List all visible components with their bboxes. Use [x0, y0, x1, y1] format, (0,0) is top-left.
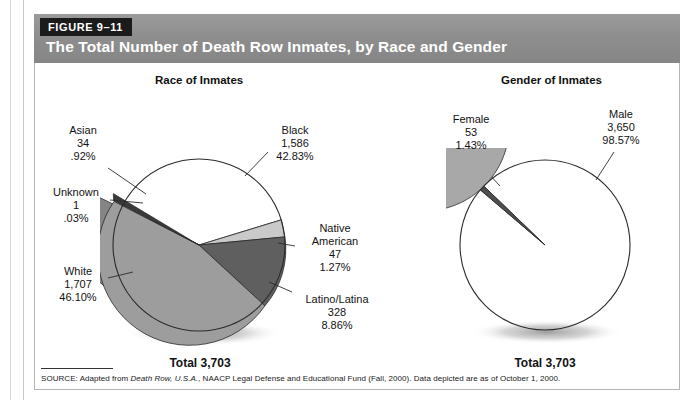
source-prefix: SOURCE: Adapted from [41, 374, 131, 383]
label-female-count: 53 [428, 126, 514, 139]
label-male-count: 3,650 [578, 121, 664, 134]
pie-total-race: Total 3,703 [140, 356, 260, 370]
label-female: Female 53 1.43% [428, 113, 514, 152]
figure-screenshot: FIGURE 9–11 The Total Number of Death Ro… [0, 0, 696, 400]
label-unknown: Unknown 1 .03% [33, 186, 119, 225]
pie-chart-race [100, 148, 300, 348]
label-black-name: Black [252, 124, 338, 137]
label-asian: Asian 34 .92% [40, 124, 126, 163]
label-native-name-1: Native [298, 222, 372, 235]
source-note: SOURCE: Adapted from Death Row, U.S.A., … [41, 374, 560, 383]
pie-shadow-gender [471, 320, 623, 344]
pie-chart-gender [446, 148, 646, 348]
label-black-count: 1,586 [252, 137, 338, 150]
label-latino-name: Latino/Latina [290, 293, 384, 306]
pie-slices-race [100, 159, 286, 345]
label-black: Black 1,586 42.83% [252, 124, 338, 163]
label-native-american: Native American 47 1.27% [298, 222, 372, 274]
label-asian-count: 34 [40, 137, 126, 150]
label-white-count: 1,707 [38, 278, 118, 291]
label-female-pct: 1.43% [428, 139, 514, 152]
pie-slices-gender [446, 148, 630, 330]
pie-slice-female [480, 186, 545, 245]
chart-heading-gender: Gender of Inmates [501, 74, 602, 86]
label-white: White 1,707 46.10% [38, 265, 118, 304]
pie-total-gender: Total 3,703 [485, 356, 605, 370]
label-native-pct: 1.27% [298, 261, 372, 274]
label-native-name-2: American [298, 235, 372, 248]
label-latino-pct: 8.86% [290, 319, 384, 332]
label-black-pct: 42.83% [252, 150, 338, 163]
page-edge-rule-inner [23, 0, 24, 400]
label-latino-count: 328 [290, 306, 384, 319]
figure-title: The Total Number of Death Row Inmates, b… [46, 38, 507, 56]
label-white-pct: 46.10% [38, 291, 118, 304]
label-male-pct: 98.57% [578, 134, 664, 147]
figure-title-bar: FIGURE 9–11 The Total Number of Death Ro… [34, 14, 680, 63]
label-native-count: 47 [298, 248, 372, 261]
label-asian-pct: .92% [40, 150, 126, 163]
label-male-name: Male [578, 108, 664, 121]
label-unknown-name: Unknown [33, 186, 119, 199]
label-asian-name: Asian [40, 124, 126, 137]
label-female-name: Female [428, 113, 514, 126]
label-latino: Latino/Latina 328 8.86% [290, 293, 384, 332]
label-unknown-count: 1 [33, 199, 119, 212]
label-white-name: White [38, 265, 118, 278]
chart-heading-race: Race of Inmates [155, 74, 243, 86]
source-divider [41, 368, 113, 369]
figure-number-badge: FIGURE 9–11 [40, 18, 132, 36]
source-rest: , NAACP Legal Defense and Educational Fu… [198, 374, 560, 383]
source-title-italic: Death Row, U.S.A. [131, 374, 199, 383]
label-unknown-pct: .03% [33, 212, 119, 225]
page-edge-rule-outer [10, 0, 11, 400]
label-male: Male 3,650 98.57% [578, 108, 664, 147]
